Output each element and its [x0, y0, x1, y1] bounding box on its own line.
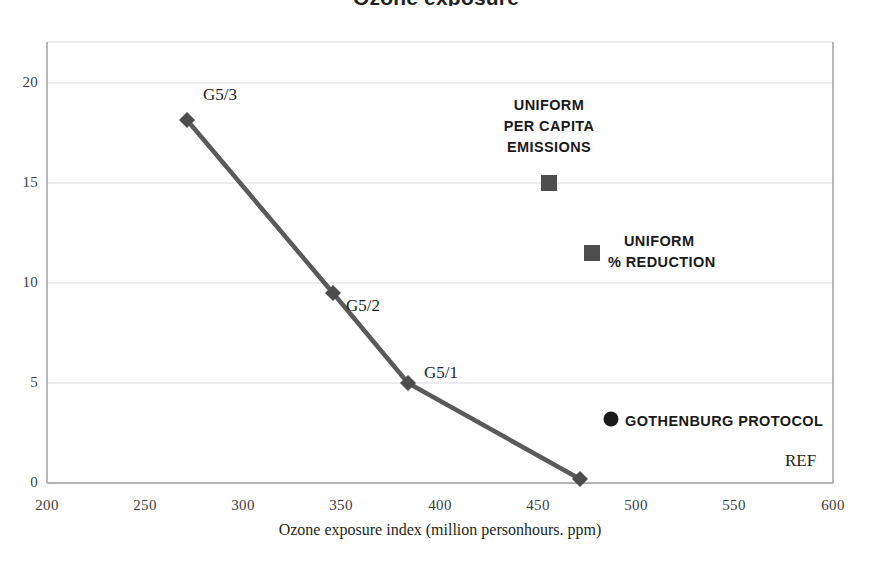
scenario-line — [187, 120, 580, 479]
point-label-ref: REF — [785, 451, 816, 471]
annotation-uniform-per-capita: UNIFORM PER CAPITA EMISSIONS — [469, 95, 629, 158]
x-axis-title: Ozone exposure index (million personhour… — [180, 521, 700, 539]
x-tick-300: 300 — [213, 497, 273, 514]
gridlines — [47, 42, 833, 383]
x-tick-400: 400 — [410, 497, 470, 514]
x-tick-350: 350 — [311, 497, 371, 514]
annotation-uniform-per-capita-line3: EMISSIONS — [469, 137, 629, 158]
point-label-g52: G5/2 — [346, 296, 380, 316]
x-tick-550: 550 — [704, 497, 764, 514]
chart-container: Ozone exposure 20 15 — [0, 0, 872, 562]
x-tick-250: 250 — [115, 497, 175, 514]
y-tick-5: 5 — [4, 374, 38, 391]
square-marker-uniform-per-capita — [541, 175, 557, 191]
y-tick-15: 15 — [4, 174, 38, 191]
chart-plot-svg — [0, 0, 872, 562]
x-tick-500: 500 — [606, 497, 666, 514]
annotation-uniform-reduction: UNIFORM % REDUCTION — [608, 231, 768, 273]
y-tick-20: 20 — [4, 74, 38, 91]
annotation-uniform-reduction-line2: % REDUCTION — [608, 252, 768, 273]
annotation-uniform-per-capita-line2: PER CAPITA — [469, 116, 629, 137]
y-tick-0: 0 — [4, 474, 38, 491]
annotation-uniform-per-capita-line1: UNIFORM — [469, 95, 629, 116]
annotation-gothenburg: GOTHENBURG PROTOCOL — [625, 411, 823, 432]
y-tick-10: 10 — [4, 274, 38, 291]
x-tick-450: 450 — [508, 497, 568, 514]
circle-marker-gothenburg — [604, 412, 619, 427]
annotation-uniform-reduction-line1: UNIFORM — [608, 231, 768, 252]
scenario-markers — [179, 112, 588, 487]
square-marker-uniform-reduction — [584, 245, 600, 261]
point-label-g53: G5/3 — [203, 85, 237, 105]
x-tick-200: 200 — [17, 497, 77, 514]
x-tick-600: 600 — [803, 497, 863, 514]
point-label-g51: G5/1 — [424, 363, 458, 383]
